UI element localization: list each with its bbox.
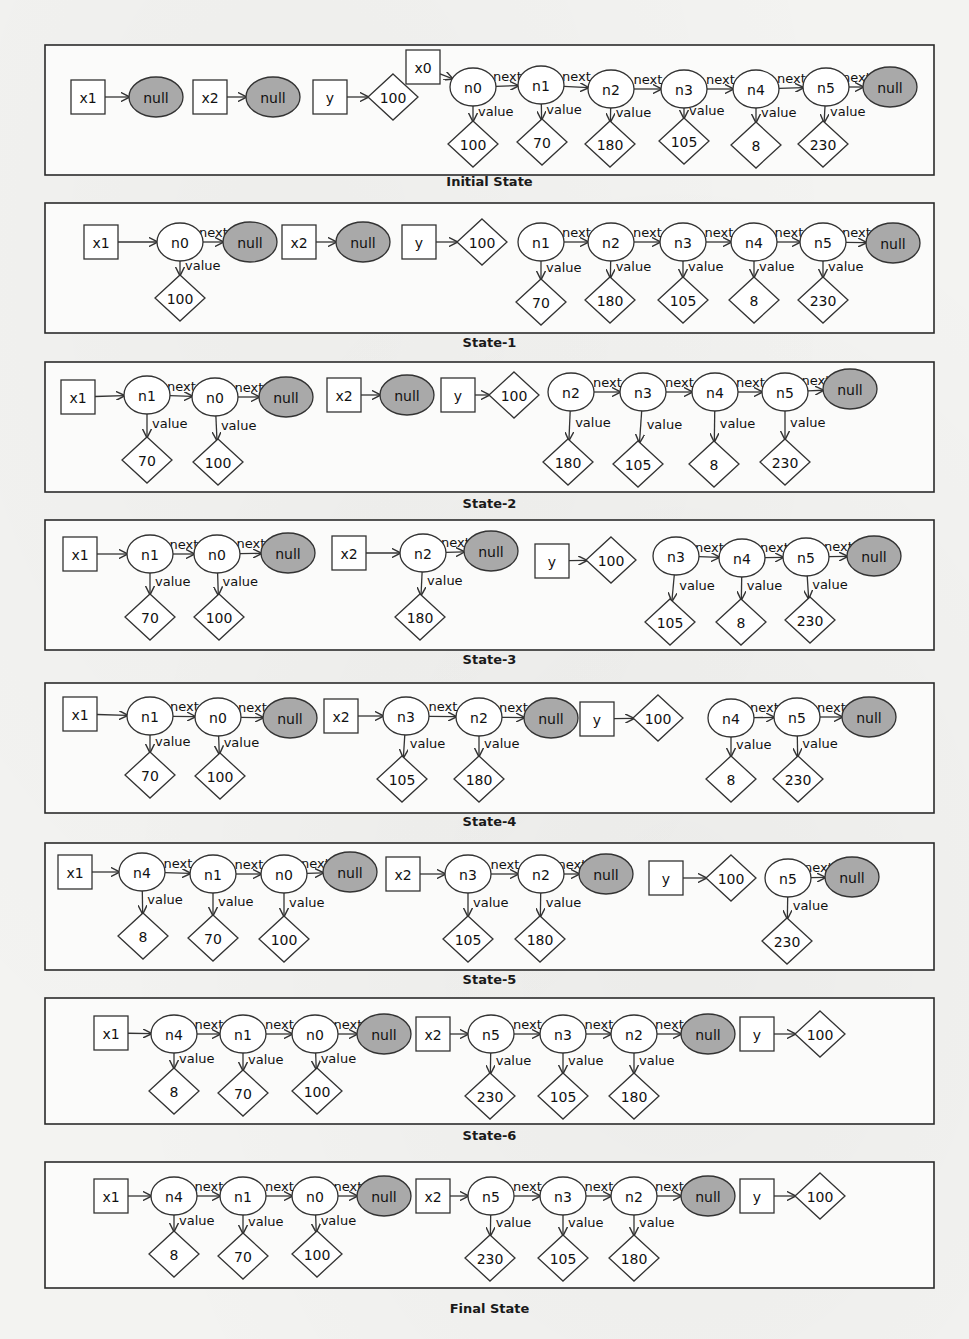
value-diamond-label: 105: [657, 615, 684, 631]
next-label: next: [562, 69, 591, 84]
value-label: value: [761, 105, 797, 120]
value-label: value: [575, 415, 611, 430]
null-terminal-label: null: [237, 235, 263, 251]
next-label: next: [633, 225, 662, 240]
value-label: value: [427, 573, 463, 588]
value-label: value: [736, 737, 772, 752]
next-label: next: [777, 71, 806, 86]
list-node-label: n2: [625, 1189, 643, 1205]
value-diamond-label: 105: [670, 293, 697, 309]
list-node-label: n5: [482, 1027, 500, 1043]
next-label: next: [705, 225, 734, 240]
next-label: next: [634, 72, 663, 87]
panel-caption: State-1: [463, 335, 517, 350]
value-label: value: [616, 259, 652, 274]
next-label: next: [265, 1017, 294, 1032]
panel-caption: Initial State: [446, 174, 533, 189]
list-node-label: n2: [470, 710, 488, 726]
value-diamond-label: 70: [141, 610, 159, 626]
list-node-label: n1: [532, 78, 550, 94]
value-diamond-label: 8: [737, 615, 746, 631]
next-label: next: [706, 72, 735, 87]
value-diamond-label: 8: [139, 929, 148, 945]
value-diamond-label: 105: [455, 932, 482, 948]
next-label: next: [164, 856, 193, 871]
null-terminal-label: null: [695, 1189, 721, 1205]
value-diamond-label: 100: [380, 90, 407, 106]
null-terminal-label: null: [371, 1027, 397, 1043]
variable-box-label: y: [326, 90, 334, 106]
panel-caption: State-2: [463, 496, 517, 511]
list-node-label: n3: [634, 385, 652, 401]
list-node-label: n2: [414, 546, 432, 562]
value-label: value: [496, 1215, 532, 1230]
list-node-label: n5: [482, 1189, 500, 1205]
value-diamond-label: 230: [477, 1251, 504, 1267]
list-node-label: n4: [706, 385, 724, 401]
value-diamond-label: 105: [550, 1089, 577, 1105]
value-diamond-label: 100: [271, 932, 298, 948]
value-label: value: [616, 105, 652, 120]
list-node-label: n5: [776, 385, 794, 401]
variable-box-label: x2: [201, 90, 218, 106]
next-label: next: [265, 1179, 294, 1194]
next-pointer-arrow: [170, 396, 192, 397]
list-node-label: n2: [602, 82, 620, 98]
value-diamond-label: 105: [550, 1251, 577, 1267]
null-terminal-label: null: [275, 546, 301, 562]
panel-caption: State-4: [463, 814, 517, 829]
value-diamond-label: 100: [807, 1027, 834, 1043]
variable-box-label: y: [415, 235, 423, 251]
reference-arrow: [95, 396, 124, 397]
next-label: next: [655, 1017, 684, 1032]
list-node-label: n1: [204, 867, 222, 883]
null-terminal-label: null: [856, 710, 882, 726]
value-label: value: [568, 1215, 604, 1230]
value-diamond-label: 180: [597, 137, 624, 153]
value-diamond-label: 100: [645, 711, 672, 727]
list-node-label: n4: [747, 82, 765, 98]
next-label: next: [493, 69, 522, 84]
null-terminal-label: null: [880, 236, 906, 252]
null-terminal-label: null: [695, 1027, 721, 1043]
list-node-label: n3: [554, 1027, 572, 1043]
state-panel: State-1nextnextnextnextnextnextvaluevalu…: [45, 203, 934, 350]
value-diamond-label: 230: [797, 613, 824, 629]
value-diamond-label: 100: [206, 610, 233, 626]
list-node-label: n4: [733, 551, 751, 567]
null-terminal-label: null: [337, 865, 363, 881]
list-node-label: n4: [722, 711, 740, 727]
value-diamond-label: 180: [555, 455, 582, 471]
value-label: value: [478, 104, 514, 119]
null-terminal-label: null: [538, 711, 564, 727]
value-label: value: [155, 734, 191, 749]
value-diamond-label: 100: [469, 235, 496, 251]
panels-layer: Initial Statenextnextnextnextnextnextval…: [45, 45, 934, 1316]
value-label: value: [793, 898, 829, 913]
value-diamond-label: 70: [138, 453, 156, 469]
next-pointer-arrow: [496, 86, 518, 87]
list-node-label: n3: [459, 867, 477, 883]
null-terminal-label: null: [478, 544, 504, 560]
list-node-label: n1: [138, 388, 156, 404]
list-node-label: n0: [275, 867, 293, 883]
next-label: next: [665, 375, 694, 390]
value-label: value: [720, 416, 756, 431]
next-label: next: [429, 699, 458, 714]
value-diamond-label: 8: [752, 138, 761, 154]
next-label: next: [585, 1017, 614, 1032]
variable-box-label: y: [593, 712, 601, 728]
variable-box-label: x1: [79, 90, 96, 106]
list-node-label: n4: [133, 865, 151, 881]
list-node-label: n2: [562, 385, 580, 401]
next-label: next: [195, 1179, 224, 1194]
variable-box-label: y: [548, 554, 556, 570]
value-label: value: [790, 415, 826, 430]
next-label: next: [499, 700, 528, 715]
value-label: value: [152, 416, 188, 431]
next-label: next: [235, 857, 264, 872]
variable-box-label: x2: [424, 1189, 441, 1205]
list-node-label: n0: [208, 547, 226, 563]
null-terminal-label: null: [350, 235, 376, 251]
next-label: next: [562, 225, 591, 240]
